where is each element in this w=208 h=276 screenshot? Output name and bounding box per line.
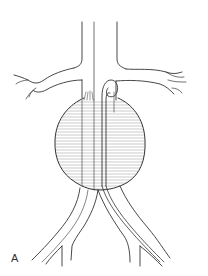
aneurysm-drawing bbox=[0, 0, 208, 276]
left-renal-artery bbox=[14, 68, 82, 99]
right-iliac-artery bbox=[98, 186, 170, 266]
catheter-iliac-segment bbox=[102, 186, 164, 262]
aneurysm-sac bbox=[50, 98, 150, 190]
left-iliac-artery bbox=[32, 188, 98, 266]
panel-label: A bbox=[11, 252, 18, 264]
aneurysm-illustration: A bbox=[0, 0, 208, 276]
right-renal-artery bbox=[116, 69, 186, 94]
catheter bbox=[102, 80, 118, 186]
